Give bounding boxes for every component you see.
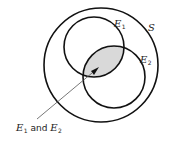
event-e1-label: E1 bbox=[113, 18, 126, 30]
sample-space-label: S bbox=[148, 22, 155, 33]
event-e2-label: E2 bbox=[139, 54, 152, 66]
venn-diagram: S E1 E2 E1 and E2 bbox=[0, 0, 172, 143]
intersection-annotation: E1 and E2 bbox=[15, 122, 62, 134]
